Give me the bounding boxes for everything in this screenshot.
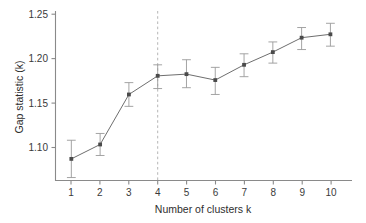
- y-axis-tick-labels: 1.25 1.20 1.15 1.10: [29, 9, 49, 153]
- y-axis-title: Gap statistic (k): [13, 61, 25, 134]
- data-point: [127, 93, 131, 97]
- data-point: [156, 74, 160, 78]
- x-tick-label: 3: [126, 187, 132, 198]
- x-tick-label: 5: [184, 187, 190, 198]
- data-point: [300, 36, 304, 40]
- x-tick-label: 2: [97, 187, 103, 198]
- x-axis-title: Number of clusters k: [155, 203, 252, 215]
- data-point: [242, 63, 246, 67]
- x-tick-label: 10: [326, 187, 338, 198]
- data-point: [329, 32, 333, 36]
- chart-canvas: 1.25 1.20 1.15 1.10 1 2 3 4 5 6 7: [0, 0, 366, 223]
- gap-statistic-line: [71, 34, 330, 159]
- y-tick-label: 1.20: [29, 53, 49, 64]
- x-tick-label: 8: [271, 187, 277, 198]
- error-bars-group: [67, 23, 335, 177]
- y-axis-ticks: [52, 14, 56, 147]
- x-axis-ticks: [71, 181, 331, 185]
- x-axis-tick-labels: 1 2 3 4 5 6 7 8 9 10: [68, 187, 337, 198]
- gap-statistic-chart: 1.25 1.20 1.15 1.10 1 2 3 4 5 6 7: [0, 0, 366, 223]
- data-point: [271, 50, 275, 54]
- data-point: [185, 72, 189, 76]
- y-tick-label: 1.25: [29, 9, 49, 20]
- y-tick-label: 1.15: [29, 98, 49, 109]
- x-tick-label: 1: [68, 187, 74, 198]
- x-tick-label: 9: [299, 187, 305, 198]
- x-tick-label: 7: [242, 187, 248, 198]
- data-point: [213, 78, 217, 82]
- data-point: [69, 157, 73, 161]
- data-markers-group: [69, 32, 332, 160]
- x-tick-label: 6: [213, 187, 219, 198]
- y-tick-label: 1.10: [29, 142, 49, 153]
- data-point: [98, 143, 102, 147]
- x-tick-label: 4: [155, 187, 161, 198]
